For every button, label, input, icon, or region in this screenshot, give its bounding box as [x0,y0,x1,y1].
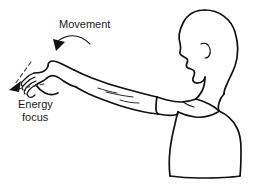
exercise-illustration: Movement Energy focus [0,0,257,185]
illustration-canvas: Movement Energy focus [0,0,257,185]
energy-focus-label-line1: Energy [18,98,53,110]
energy-focus-label-line2: focus [22,111,49,123]
movement-label: Movement [59,18,110,30]
figure-background [0,0,257,185]
